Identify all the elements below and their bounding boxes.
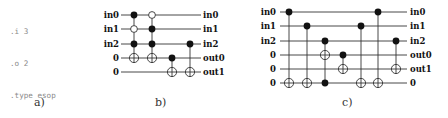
circuit-b-wire-label-left: in1 xyxy=(104,24,119,34)
circuit-b-wire-label-left: in2 xyxy=(104,39,119,49)
control-dot-filled-icon xyxy=(322,38,329,45)
circuit-b-wire-label-right: out0 xyxy=(203,53,225,63)
circuit-b-wire-label-left: 0 xyxy=(113,53,119,63)
control-dot-filled-icon xyxy=(322,80,329,87)
circuit-c-wire-label-left: in1 xyxy=(261,21,276,31)
control-dot-filled-icon xyxy=(286,9,293,16)
control-dot-open-icon xyxy=(149,12,156,19)
control-dot-filled-icon xyxy=(358,23,365,30)
circuit-c-wire-label-right: in1 xyxy=(410,21,425,31)
circuit-b-wire-label-right: in1 xyxy=(203,24,218,34)
control-dot-filled-icon xyxy=(131,12,138,19)
circuit-b-wire-label-right: out1 xyxy=(203,67,225,77)
circuit-c-wire-label-right: in2 xyxy=(410,36,425,46)
circuit-c-wire-label-left: in0 xyxy=(261,7,276,17)
circuit-b-wire-label-right: in2 xyxy=(203,39,218,49)
circuit-b-wire-label-right: in0 xyxy=(203,10,218,20)
circuit-c-wire-label-right: out0 xyxy=(410,50,432,60)
circuit-c-wire-label-right: out1 xyxy=(410,64,432,74)
control-dot-filled-icon xyxy=(131,41,138,48)
circuit-c-wire-label-left: 0 xyxy=(270,78,276,88)
circuit-c-wire-label-left: 0 xyxy=(270,50,276,60)
control-dot-filled-icon xyxy=(393,38,400,45)
circuit-c-wire-label-right: in0 xyxy=(410,7,425,17)
control-dot-filled-icon xyxy=(149,41,156,48)
control-dot-filled-icon xyxy=(304,23,311,30)
control-dot-filled-icon xyxy=(169,55,176,62)
control-dot-filled-icon xyxy=(187,41,194,48)
control-dot-filled-icon xyxy=(340,52,347,59)
circuit-b-wire-label-left: in0 xyxy=(104,10,119,20)
control-dot-open-icon xyxy=(131,26,138,33)
circuit-c-wire-label-left: in2 xyxy=(261,36,276,46)
circuit-c-wire-label-left: 0 xyxy=(270,64,276,74)
control-dot-filled-icon xyxy=(375,9,382,16)
reversible-circuit-diagrams: in0in0in1in1in2in20out00out1in0in0in1in1… xyxy=(0,0,448,118)
circuit-c-wire-label-right: 0 xyxy=(410,78,416,88)
circuit-b-wire-label-left: 0 xyxy=(113,67,119,77)
control-dot-filled-icon xyxy=(149,26,156,33)
